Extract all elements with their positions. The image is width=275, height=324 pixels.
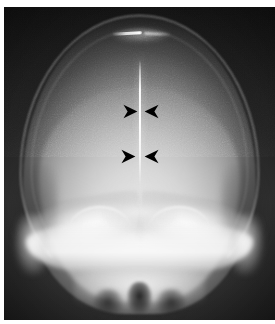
maxillary-sinus-left <box>93 289 123 320</box>
sagittal-midline-lower <box>140 195 142 258</box>
arrowhead-marker-upper-left <box>123 104 138 119</box>
arrowhead-icon <box>123 104 138 119</box>
mastoid-edge-right <box>232 214 270 277</box>
figure-root <box>0 0 275 324</box>
arrowhead-marker-upper-right <box>144 104 159 119</box>
nasal-cavity-region <box>127 282 151 316</box>
skull-radiograph-image <box>4 7 275 320</box>
arrowhead-icon <box>144 149 159 164</box>
arrowhead-icon <box>144 104 159 119</box>
mastoid-edge-left <box>8 214 46 277</box>
arrowhead-marker-lower-left <box>121 149 136 164</box>
arrowhead-marker-lower-right <box>144 149 159 164</box>
sagittal-midline-density <box>139 60 141 204</box>
maxillary-sinus-right <box>156 289 186 320</box>
arrowhead-icon <box>121 149 136 164</box>
